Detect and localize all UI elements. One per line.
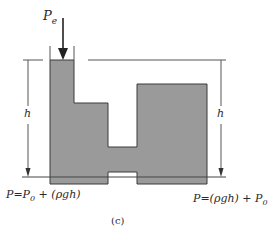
pressure-symbol: P	[43, 8, 52, 23]
right-height-label: h	[217, 107, 224, 120]
right-pressure-formula: P=(ρgh) + P0	[193, 192, 268, 207]
formula-right-subscript: 0	[262, 198, 267, 207]
formula-left-suffix: + (ρgh)	[35, 188, 80, 201]
fluid-body	[50, 60, 207, 184]
external-pressure-arrow-icon	[58, 18, 68, 60]
formula-left-prefix: P=P	[6, 188, 30, 201]
left-pressure-formula: P=P0 + (ρgh)	[6, 188, 81, 203]
figure-caption: (c)	[111, 215, 124, 226]
formula-right-prefix: P=(ρgh) + P	[193, 192, 262, 205]
external-pressure-label: Pe	[43, 8, 57, 26]
pressure-subscript: e	[52, 16, 57, 26]
left-height-label: h	[24, 107, 31, 120]
